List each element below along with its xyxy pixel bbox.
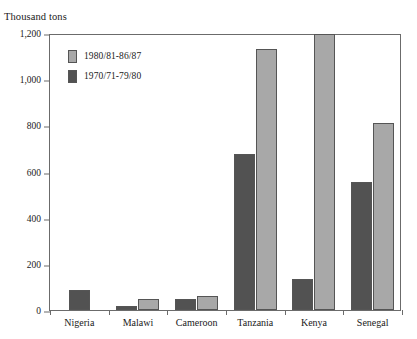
x-axis-tick <box>285 310 286 315</box>
bar-cameroon-1980-86 <box>197 296 218 310</box>
bar-malawi-1980-86 <box>138 299 159 310</box>
bar-kenya-1980-86 <box>314 34 335 310</box>
y-axis-tick-label: 400 <box>27 215 41 225</box>
bar-group <box>285 35 344 310</box>
x-axis-label-cameroon: Cameroon <box>176 318 218 328</box>
bar-cameroon-1970-79 <box>175 299 196 310</box>
legend-label: 1980/81-86/87 <box>84 51 141 61</box>
x-axis-label-nigeria: Nigeria <box>64 318 94 328</box>
legend-label: 1970/71-79/80 <box>84 71 141 81</box>
bar-senegal-1980-86 <box>373 123 394 310</box>
y-axis-tick-label: 200 <box>27 261 41 271</box>
y-axis-tick-label: 800 <box>27 123 41 133</box>
x-axis-tick <box>343 310 344 315</box>
bar-nigeria-1970-79 <box>69 290 90 310</box>
legend: 1980/81-86/871970/71-79/80 <box>68 48 141 88</box>
bar-group <box>343 35 402 310</box>
x-axis-label-kenya: Kenya <box>301 318 327 328</box>
x-axis-tick <box>50 310 51 315</box>
x-axis-label-malawi: Malawi <box>123 318 154 328</box>
bar-group <box>167 35 226 310</box>
y-axis-tick-label: 1,200 <box>20 30 41 40</box>
x-axis-tick <box>167 310 168 315</box>
x-axis-tick <box>226 310 227 315</box>
x-axis-tick <box>402 310 403 315</box>
bar-chart: Thousand tons 02004006008001,0001,200 Ni… <box>0 0 417 339</box>
bar-tanzania-1970-79 <box>234 154 255 310</box>
bar-malawi-1970-79 <box>116 306 137 310</box>
bar-tanzania-1980-86 <box>256 49 277 310</box>
legend-item: 1980/81-86/87 <box>68 48 141 64</box>
y-axis-unit-label: Thousand tons <box>4 11 67 22</box>
x-axis-label-senegal: Senegal <box>357 318 389 328</box>
bar-senegal-1970-79 <box>351 182 372 310</box>
x-axis-label-tanzania: Tanzania <box>237 318 273 328</box>
y-axis-tick-label: 600 <box>27 169 41 179</box>
y-axis-tick-label: 1,000 <box>20 76 41 86</box>
x-axis-tick <box>109 310 110 315</box>
bar-group <box>226 35 285 310</box>
bar-kenya-1970-79 <box>292 279 313 310</box>
legend-swatch-dark <box>68 70 77 83</box>
legend-swatch-light <box>68 50 77 63</box>
y-axis-tick-label: 0 <box>36 307 41 317</box>
legend-item: 1970/71-79/80 <box>68 68 141 84</box>
